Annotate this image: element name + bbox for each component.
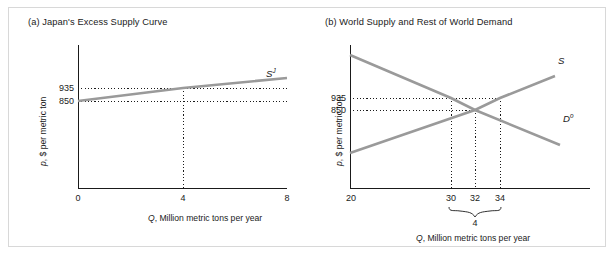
panel-b-x-axis-caption: Q, Million metric tons per year: [416, 233, 530, 243]
panel-a-ytick-935: 935: [48, 83, 74, 93]
panel-b-xtick-32: 32: [465, 193, 485, 203]
panel-a-xtick-8: 8: [277, 193, 297, 203]
panel-b-curve-row-demand: [350, 55, 560, 145]
panel-b-curve-label-demand: Do: [563, 112, 574, 124]
panel-b-curve-world-supply: [350, 76, 555, 153]
panel-b-curve-label-supply-base: S: [558, 55, 564, 66]
panel-b-brace-label: 4: [465, 218, 485, 228]
panel-b-xtick-30: 30: [441, 193, 461, 203]
panel-b-curves: [308, 0, 616, 258]
panel-a: (a) Japan's Excess Supply Curve p, $ per…: [0, 0, 308, 258]
panel-b-x-axis-caption-symbol: Q: [416, 233, 423, 243]
panel-a-x-axis-caption-symbol: Q: [148, 213, 155, 223]
panel-a-curve-label-supply: SJ: [266, 67, 276, 79]
panel-a-curve-excess-supply: [78, 78, 287, 101]
panel-b-ytick-850: 850: [320, 105, 346, 115]
panel-a-x-axis-caption-text: , Million metric tons per year: [155, 213, 262, 223]
figure-container: (a) Japan's Excess Supply Curve p, $ per…: [0, 0, 616, 258]
panel-a-xtick-0: 0: [68, 193, 88, 203]
panel-b-curve-label-demand-base: D: [563, 113, 570, 124]
panel-a-x-axis-caption: Q, Million metric tons per year: [148, 213, 262, 223]
panel-b-ytick-935: 935: [320, 93, 346, 103]
panel-a-curve-label-supply-sup: J: [272, 67, 275, 74]
panel-b-xtick-20: 20: [341, 193, 361, 203]
panel-b-curve-label-demand-sup: o: [570, 112, 574, 119]
panel-b-curve-label-supply: S: [558, 54, 564, 66]
panel-b-xtick-34: 34: [490, 193, 510, 203]
panel-a-xtick-4: 4: [173, 193, 193, 203]
panel-b-brace: [449, 207, 501, 217]
panel-a-ytick-850: 850: [48, 96, 74, 106]
panel-b: (b) World Supply and Rest of World Deman…: [308, 0, 616, 258]
panel-b-x-axis-caption-text: , Million metric tons per year: [423, 233, 530, 243]
